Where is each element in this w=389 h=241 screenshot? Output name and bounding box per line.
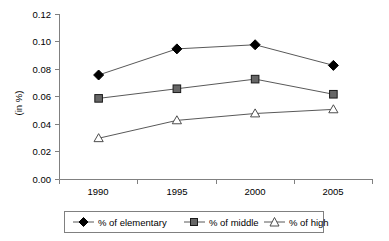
legend-label-middle: % of middle	[209, 217, 259, 228]
legend-label-high: % of high	[289, 217, 329, 228]
filled-square-marker	[251, 75, 259, 83]
y-tick-label: 0.04	[33, 119, 52, 130]
y-tick-marks	[55, 15, 60, 180]
y-tick-label: 0.10	[33, 36, 52, 47]
y-tick-label: 0.00	[33, 174, 52, 185]
series-line	[99, 45, 334, 75]
filled-diamond-marker	[94, 70, 104, 80]
data-series-layer	[94, 40, 339, 142]
filled-diamond-marker	[250, 40, 260, 50]
legend-label-elementary: % of elementary	[98, 217, 167, 228]
legend-item-high[interactable]: % of high	[264, 217, 329, 228]
chart-legend: % of elementary % of middle % of high	[65, 212, 329, 233]
series-filled-square	[95, 75, 337, 102]
series-filled-diamond	[94, 40, 339, 80]
x-tick-label: 2000	[244, 186, 265, 197]
y-tick-label: 0.08	[33, 64, 52, 75]
chart-canvas: (in %) 0.12 0.10 0.08 0.06 0.04 0.02 0.0…	[0, 0, 389, 241]
filled-diamond-marker	[172, 44, 182, 54]
y-axis-title: (in %)	[13, 91, 24, 116]
y-tick-label: 0.12	[33, 9, 52, 20]
x-tick-labels: 1990 1995 2000 2005	[87, 186, 343, 197]
filled-square-marker	[330, 90, 338, 98]
series-line	[99, 109, 334, 138]
y-tick-label: 0.06	[33, 91, 52, 102]
filled-square-marker	[95, 95, 103, 103]
series-open-triangle	[94, 105, 338, 142]
legend-item-middle[interactable]: % of middle	[184, 217, 259, 228]
line-chart: (in %) 0.12 0.10 0.08 0.06 0.04 0.02 0.0…	[0, 0, 389, 241]
y-tick-labels: 0.12 0.10 0.08 0.06 0.04 0.02 0.00	[33, 9, 52, 185]
filled-diamond-marker	[328, 60, 338, 70]
x-tick-label: 1990	[87, 186, 108, 197]
filled-square-marker	[173, 85, 181, 93]
y-tick-label: 0.02	[33, 146, 52, 157]
x-tick-label: 2005	[322, 186, 343, 197]
series-line	[99, 79, 334, 98]
open-triangle-marker	[329, 105, 338, 113]
x-tick-marks	[60, 180, 373, 185]
x-tick-label: 1995	[166, 186, 187, 197]
filled-square-marker-icon	[191, 219, 198, 226]
